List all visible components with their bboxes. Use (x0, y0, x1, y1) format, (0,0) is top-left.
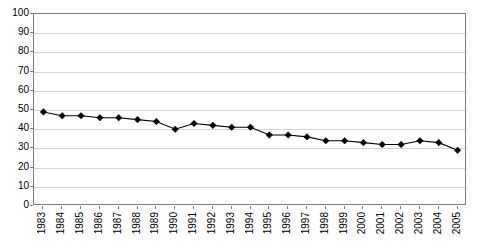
series-line (43, 112, 457, 150)
x-axis: 1983198419851986198719881989199019911992… (33, 206, 466, 252)
x-axis-tick-mark (250, 206, 251, 209)
x-axis-tick-label: 2003 (414, 212, 424, 234)
data-point-marker (97, 114, 104, 121)
y-axis-tick-label: 80 (0, 46, 29, 56)
x-axis-tick-mark (362, 206, 363, 209)
y-axis: 0102030405060708090100 (0, 0, 29, 252)
x-axis-tick-mark (174, 206, 175, 209)
x-axis-tick-mark (457, 206, 458, 209)
x-axis-tick-mark (438, 206, 439, 209)
x-axis-tick-mark (80, 206, 81, 209)
data-point-marker (153, 118, 160, 125)
x-axis-tick-label: 1990 (169, 212, 179, 234)
x-axis-tick-label: 1984 (56, 212, 66, 234)
line-chart: 0102030405060708090100 19831984198519861… (0, 0, 478, 252)
data-point-marker (172, 126, 179, 133)
y-axis-tick-label: 0 (0, 200, 29, 210)
data-point-marker (323, 137, 330, 144)
data-point-marker (454, 147, 461, 154)
x-axis-tick-mark (155, 206, 156, 209)
x-axis-tick-label: 1985 (75, 212, 85, 234)
y-axis-tick-label: 10 (0, 181, 29, 191)
data-point-marker (360, 139, 367, 146)
y-axis-tick-label: 30 (0, 142, 29, 152)
x-axis-tick-label: 2004 (433, 212, 443, 234)
x-axis-tick-label: 2005 (452, 212, 462, 234)
x-axis-tick-mark (268, 206, 269, 209)
data-point-marker (266, 132, 273, 139)
data-point-marker (191, 120, 198, 127)
plot-area (33, 13, 466, 205)
x-axis-tick-mark (400, 206, 401, 209)
x-axis-tick-label: 1992 (207, 212, 217, 234)
x-axis-tick-label: 1999 (339, 212, 349, 234)
x-axis-tick-label: 2001 (376, 212, 386, 234)
y-axis-tick-label: 100 (0, 8, 29, 18)
x-axis-tick-mark (99, 206, 100, 209)
x-axis-tick-label: 1996 (282, 212, 292, 234)
data-point-marker (285, 132, 292, 139)
x-axis-tick-label: 2002 (395, 212, 405, 234)
x-axis-tick-mark (118, 206, 119, 209)
data-point-marker (379, 141, 386, 148)
x-axis-tick-label: 1993 (226, 212, 236, 234)
y-axis-tick-label: 70 (0, 66, 29, 76)
y-axis-tick-label: 50 (0, 104, 29, 114)
x-axis-tick-label: 1987 (113, 212, 123, 234)
x-axis-tick-mark (42, 206, 43, 209)
x-axis-tick-label: 1997 (301, 212, 311, 234)
x-axis-tick-mark (137, 206, 138, 209)
data-point-marker (398, 141, 405, 148)
x-axis-tick-label: 2000 (357, 212, 367, 234)
data-point-marker (304, 134, 311, 141)
data-point-marker (417, 137, 424, 144)
x-axis-tick-label: 1983 (37, 212, 47, 234)
y-axis-tick-label: 90 (0, 27, 29, 37)
x-axis-tick-mark (61, 206, 62, 209)
data-point-marker (59, 112, 66, 119)
x-axis-tick-label: 1994 (245, 212, 255, 234)
x-axis-tick-mark (419, 206, 420, 209)
x-axis-tick-mark (381, 206, 382, 209)
x-axis-tick-label: 1998 (320, 212, 330, 234)
data-point-marker (210, 122, 217, 129)
data-series (34, 14, 467, 206)
data-point-marker (78, 112, 85, 119)
x-axis-tick-mark (287, 206, 288, 209)
data-point-marker (115, 114, 122, 121)
data-point-marker (40, 109, 47, 116)
x-axis-tick-label: 1991 (188, 212, 198, 234)
x-axis-tick-mark (325, 206, 326, 209)
data-point-marker (247, 124, 254, 131)
y-axis-tick-label: 20 (0, 162, 29, 172)
x-axis-tick-label: 1989 (150, 212, 160, 234)
data-point-marker (341, 137, 348, 144)
y-axis-tick-label: 60 (0, 85, 29, 95)
x-axis-tick-label: 1988 (132, 212, 142, 234)
y-axis-tick-label: 40 (0, 123, 29, 133)
x-axis-tick-label: 1986 (94, 212, 104, 234)
x-axis-tick-mark (212, 206, 213, 209)
x-axis-tick-mark (306, 206, 307, 209)
data-point-marker (228, 124, 235, 131)
x-axis-tick-mark (193, 206, 194, 209)
data-point-marker (435, 139, 442, 146)
x-axis-tick-mark (344, 206, 345, 209)
x-axis-tick-mark (231, 206, 232, 209)
data-point-marker (134, 116, 141, 123)
x-axis-tick-label: 1995 (263, 212, 273, 234)
